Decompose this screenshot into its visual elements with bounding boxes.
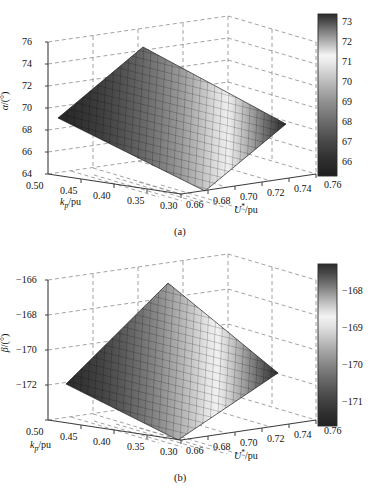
cbar-tick-a-7: 66 <box>342 157 352 167</box>
tick-u-a-5: 0.76 <box>324 180 342 190</box>
cbar-tick-a-5: 68 <box>342 117 352 127</box>
tick-z-b-1: −168 <box>16 310 37 320</box>
tick-u-a-2: 0.70 <box>240 192 258 202</box>
tick-kp-a-2: 0.40 <box>93 191 111 201</box>
cbar-tick-a-0: 73 <box>342 17 352 27</box>
panel-caption-b: (b) <box>174 473 186 484</box>
axis-title-kp-b: kp/pu <box>30 440 51 453</box>
cbar-tick-b-0: −168 <box>342 286 363 296</box>
tick-u-a-4: 0.74 <box>294 184 312 194</box>
cbar-tick-b-1: −169 <box>342 323 363 333</box>
tick-z-b-3: −172 <box>16 380 37 390</box>
tick-kp-b-1: 0.45 <box>60 432 78 442</box>
tick-kp-b-0: 0.50 <box>26 427 44 437</box>
cbar-tick-a-3: 70 <box>342 77 352 87</box>
tick-u-b-5: 0.76 <box>324 426 342 436</box>
tick-z-a-2: 72 <box>22 81 32 91</box>
panel-b: −166 −168 −170 −172 β/(°) 0.50 0.45 0.40… <box>0 250 370 500</box>
panel-caption-a: (a) <box>174 227 186 238</box>
tick-kp-a-4: 0.30 <box>160 201 178 211</box>
tick-u-b-4: 0.74 <box>294 430 312 440</box>
colorbar-a <box>318 14 337 176</box>
cbar-tick-a-1: 72 <box>342 37 352 47</box>
tick-kp-b-4: 0.30 <box>160 447 178 457</box>
axis-title-z-b: β/(°) <box>0 334 10 352</box>
tick-u-a-1: 0.68 <box>213 196 231 206</box>
tick-u-b-3: 0.72 <box>267 434 285 444</box>
colorbar-b <box>318 264 337 426</box>
tick-u-a-0: 0.66 <box>186 200 204 210</box>
tick-z-a-0: 76 <box>22 37 32 47</box>
panel-a: 76 74 72 70 68 66 64 α/(°) 0.50 0.45 0.4… <box>0 0 370 250</box>
axis-title-z-a: α/(°) <box>0 92 10 111</box>
axis-title-kp-a: kp/pu <box>60 197 81 210</box>
tick-u-b-0: 0.66 <box>186 446 204 456</box>
tick-z-a-4: 68 <box>22 125 32 135</box>
tick-u-b-1: 0.68 <box>213 442 231 452</box>
surface-plot-a <box>0 0 370 250</box>
axis-title-u-a: U*/pu <box>234 203 258 215</box>
tick-kp-a-3: 0.35 <box>127 196 145 206</box>
surface-mesh-b <box>66 283 278 440</box>
tick-z-a-6: 64 <box>22 169 32 179</box>
surface-plot-b <box>0 250 370 501</box>
tick-z-a-5: 66 <box>22 147 32 157</box>
tick-kp-b-3: 0.35 <box>127 442 145 452</box>
tick-z-b-2: −170 <box>16 345 37 355</box>
axis-title-u-b: U*/pu <box>234 449 258 461</box>
cbar-tick-a-4: 69 <box>342 97 352 107</box>
tick-z-a-3: 70 <box>22 103 32 113</box>
tick-z-a-1: 74 <box>22 59 32 69</box>
tick-z-b-0: −166 <box>16 275 37 285</box>
figure-container: 76 74 72 70 68 66 64 α/(°) 0.50 0.45 0.4… <box>0 0 370 501</box>
tick-u-a-3: 0.72 <box>267 188 285 198</box>
tick-u-b-2: 0.70 <box>240 438 258 448</box>
tick-kp-a-1: 0.45 <box>60 186 78 196</box>
tick-kp-b-2: 0.40 <box>93 437 111 447</box>
cbar-tick-a-6: 67 <box>342 137 352 147</box>
surface-mesh-a <box>58 47 286 191</box>
cbar-tick-b-2: −170 <box>342 360 363 370</box>
cbar-tick-b-3: −171 <box>342 397 363 407</box>
cbar-tick-a-2: 71 <box>342 57 352 67</box>
tick-kp-a-0: 0.50 <box>26 181 44 191</box>
